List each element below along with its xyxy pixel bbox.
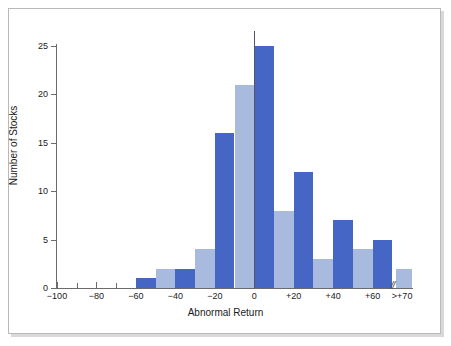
x-axis-tick-label: −100 (35, 291, 79, 301)
y-axis-tick (51, 46, 57, 47)
histogram-bar (353, 249, 373, 288)
y-axis-tick (51, 94, 57, 95)
histogram-bar (195, 249, 215, 288)
histogram-bar (136, 278, 156, 288)
x-axis-tick-label: +20 (272, 291, 316, 301)
histogram-bar (313, 259, 333, 288)
y-axis-tick (51, 143, 57, 144)
histogram-bar (175, 269, 195, 288)
y-axis-tick-label: 10 (22, 187, 48, 196)
histogram-figure: 0510152025 −100−80−60−40−200+20+40+60>+7… (0, 0, 451, 346)
histogram-bar (254, 46, 274, 288)
x-axis-tick-label: −80 (74, 291, 118, 301)
histogram-bar (333, 220, 353, 288)
axis-break-icon: // (390, 280, 394, 290)
x-axis-minor-tick (77, 283, 78, 288)
histogram-bar (235, 85, 255, 288)
x-axis-tick-label: +40 (311, 291, 355, 301)
histogram-bar (215, 133, 235, 288)
y-axis-tick (51, 191, 57, 192)
histogram-bar (274, 211, 294, 288)
y-axis-tick (51, 240, 57, 241)
y-axis-title: Number of Stocks (8, 86, 19, 206)
y-axis-tick-label: 25 (22, 42, 48, 51)
x-axis-tick-label: −20 (193, 291, 237, 301)
histogram-bar (156, 269, 176, 288)
x-axis-tick (96, 282, 97, 288)
y-axis-tick (51, 288, 57, 289)
x-axis-line (56, 288, 413, 289)
x-axis-title: Abnormal Return (0, 307, 451, 318)
x-axis-tick-label: 0 (232, 291, 276, 301)
x-axis-tick (57, 282, 58, 288)
y-axis-tick-label: 15 (22, 139, 48, 148)
y-axis-tick-label: 20 (22, 90, 48, 99)
y-axis-tick-label: 5 (22, 236, 48, 245)
histogram-bar (396, 269, 412, 288)
y-axis-line (56, 44, 57, 289)
histogram-bar (294, 172, 314, 288)
x-axis-minor-tick (116, 283, 117, 288)
x-axis-tick-label: −40 (153, 291, 197, 301)
x-axis-tick-label: >+70 (380, 291, 424, 301)
x-axis-tick-label: −60 (114, 291, 158, 301)
zero-reference-line (254, 31, 255, 288)
